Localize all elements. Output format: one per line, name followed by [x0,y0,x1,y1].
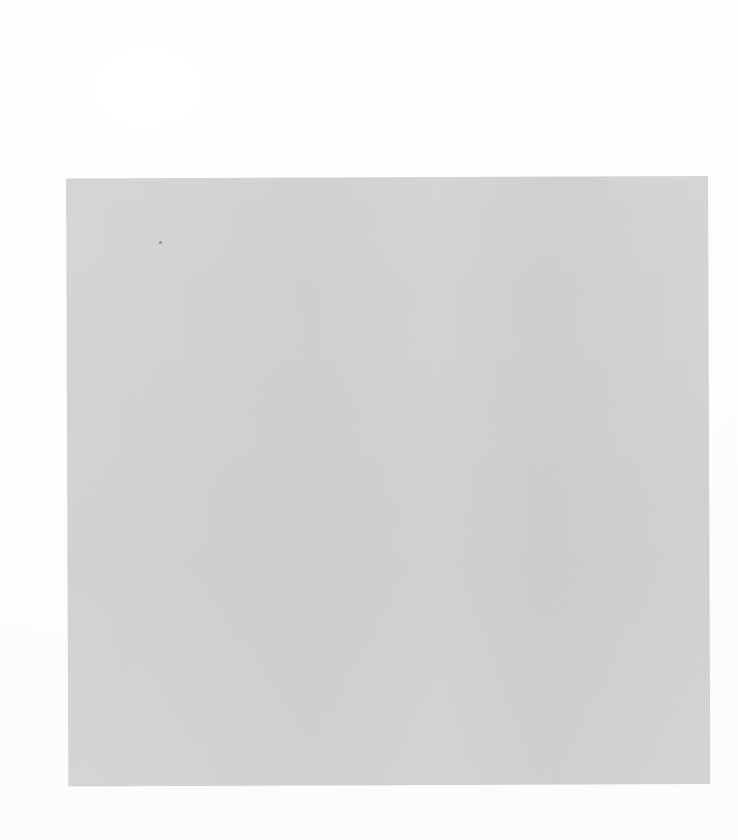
page-content-area [66,176,710,786]
scanned-page-region [66,176,710,786]
scan-canvas [0,0,738,840]
dust-speck-artifact [159,241,162,244]
